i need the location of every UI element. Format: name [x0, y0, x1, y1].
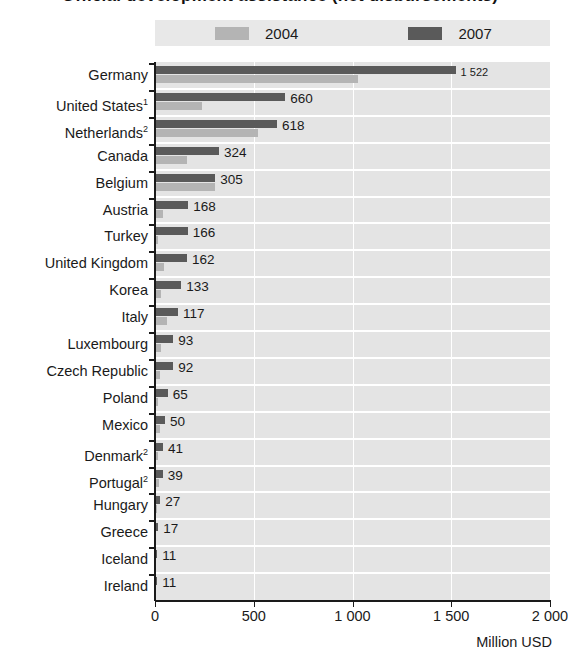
- bar-2007[interactable]: [155, 470, 163, 478]
- row-separator: [155, 115, 550, 117]
- bar-2004[interactable]: [155, 75, 358, 83]
- bar-2007[interactable]: [155, 416, 165, 424]
- x-tick: [254, 601, 255, 607]
- y-tick: [149, 359, 156, 361]
- row-separator: [155, 276, 550, 278]
- x-axis-title: Million USD: [476, 634, 552, 650]
- value-label: 41: [168, 442, 183, 455]
- bar-2007[interactable]: [155, 120, 277, 128]
- bar-2007[interactable]: [155, 443, 163, 451]
- y-tick: [149, 332, 156, 334]
- row-separator: [155, 303, 550, 305]
- row-separator: [155, 169, 550, 171]
- value-label: 618: [282, 119, 305, 132]
- x-tick: [451, 601, 452, 607]
- bar-2007[interactable]: [155, 362, 173, 370]
- row-separator: [155, 518, 550, 520]
- legend-label-2004: 2004: [265, 25, 298, 42]
- x-tick-label: 500: [242, 608, 266, 624]
- category-label: United Kingdom: [0, 256, 148, 270]
- value-label: 162: [192, 253, 215, 266]
- bar-2004[interactable]: [155, 102, 202, 110]
- bar-2004[interactable]: [155, 317, 167, 325]
- bar-2007[interactable]: [155, 254, 187, 262]
- category-label: Ireland: [0, 579, 148, 593]
- y-tick: [149, 305, 156, 307]
- x-tick: [550, 601, 551, 607]
- bar-2007[interactable]: [155, 281, 181, 289]
- chart-title-cropped: Official development assistance (net dis…: [0, 0, 560, 14]
- value-label: 27: [165, 495, 180, 508]
- category-label: Iceland: [0, 552, 148, 566]
- bar-2004[interactable]: [155, 183, 215, 191]
- row-separator: [155, 88, 550, 90]
- row-separator: [155, 411, 550, 413]
- legend-swatch-2004-icon: [215, 27, 249, 40]
- y-tick: [149, 413, 156, 415]
- bar-2004[interactable]: [155, 129, 258, 137]
- value-label: 133: [186, 280, 209, 293]
- bar-2007[interactable]: [155, 66, 456, 74]
- y-tick: [149, 440, 156, 442]
- value-label: 92: [178, 361, 193, 374]
- row-separator: [155, 357, 550, 359]
- category-label: Korea: [0, 283, 148, 297]
- y-tick: [149, 520, 156, 522]
- legend-item-2007[interactable]: 2007: [408, 25, 491, 42]
- row-separator: [155, 545, 550, 547]
- bar-2004[interactable]: [155, 156, 187, 164]
- category-label: Mexico: [0, 418, 148, 432]
- value-label: 1 522: [461, 66, 489, 79]
- value-label: 50: [170, 415, 185, 428]
- row-separator: [155, 330, 550, 332]
- bar-2004[interactable]: [155, 210, 163, 218]
- value-label: 17: [163, 522, 178, 535]
- value-label: 168: [193, 200, 216, 213]
- row-separator: [155, 438, 550, 440]
- bar-2007[interactable]: [155, 389, 168, 397]
- legend-label-2007: 2007: [458, 25, 491, 42]
- value-label: 305: [220, 173, 243, 186]
- category-label: United States1: [0, 95, 148, 113]
- bar-2007[interactable]: [155, 147, 219, 155]
- chart-title: Official development assistance (net dis…: [0, 0, 560, 6]
- row-separator: [155, 142, 550, 144]
- x-tick: [353, 601, 354, 607]
- x-tick-label: 1 000: [334, 608, 370, 624]
- category-label: Italy: [0, 310, 148, 324]
- row-separator: [155, 222, 550, 224]
- value-label: 93: [178, 334, 193, 347]
- x-tick-label: 1 500: [433, 608, 469, 624]
- category-label: Belgium: [0, 176, 148, 190]
- category-label: Czech Republic: [0, 364, 148, 378]
- gridline: [550, 62, 551, 600]
- category-label: Germany: [0, 68, 148, 82]
- y-tick: [149, 386, 156, 388]
- y-tick: [149, 278, 156, 280]
- category-label: Austria: [0, 203, 148, 217]
- bar-2007[interactable]: [155, 227, 188, 235]
- bar-2007[interactable]: [155, 335, 173, 343]
- y-tick: [149, 63, 156, 65]
- bar-2004[interactable]: [155, 263, 164, 271]
- x-tick-label: 0: [151, 608, 159, 624]
- value-label: 117: [183, 307, 205, 320]
- chart-legend: 2004 2007: [155, 20, 550, 46]
- plot-area: [155, 62, 550, 600]
- x-tick: [155, 601, 156, 607]
- category-label: Luxembourg: [0, 337, 148, 351]
- category-label: Greece: [0, 525, 148, 539]
- y-tick: [149, 493, 156, 495]
- bar-2007[interactable]: [155, 93, 285, 101]
- y-tick: [149, 251, 156, 253]
- bar-2007[interactable]: [155, 174, 215, 182]
- bar-2007[interactable]: [155, 201, 188, 209]
- category-label: Turkey: [0, 229, 148, 243]
- y-tick: [149, 198, 156, 200]
- value-label: 660: [290, 92, 313, 105]
- value-label: 11: [162, 576, 176, 589]
- row-separator: [155, 491, 550, 493]
- legend-item-2004[interactable]: 2004: [215, 25, 298, 42]
- bar-2007[interactable]: [155, 308, 178, 316]
